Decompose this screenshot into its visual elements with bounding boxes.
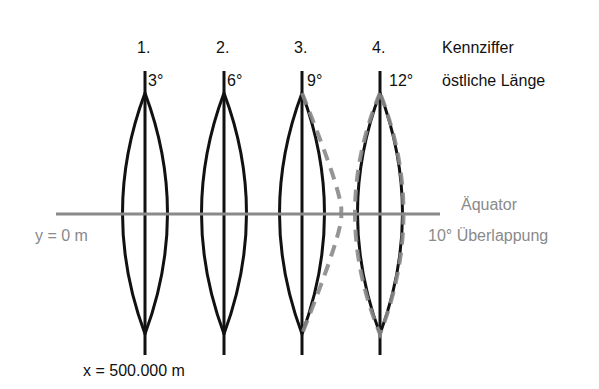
overlap-label: 10° Überlappung bbox=[428, 227, 548, 245]
equator-label: Äquator bbox=[461, 196, 517, 214]
strip-diagram bbox=[0, 0, 599, 389]
meridian-label-2: 6° bbox=[227, 72, 242, 90]
meridian-label-3: 9° bbox=[307, 72, 322, 90]
meridian-label-4: 12° bbox=[389, 72, 413, 90]
false-easting-label: x = 500.000 m bbox=[83, 362, 185, 380]
longitude-header-label: östliche Länge bbox=[442, 72, 545, 90]
index-header-label: Kennziffer bbox=[442, 39, 514, 57]
strip-index-1: 1. bbox=[137, 39, 150, 57]
meridian-label-1: 3° bbox=[148, 72, 163, 90]
strip-index-4: 4. bbox=[372, 39, 385, 57]
strip-index-2: 2. bbox=[216, 39, 229, 57]
strip-index-3: 3. bbox=[294, 39, 307, 57]
y-origin-label: y = 0 m bbox=[35, 227, 88, 245]
